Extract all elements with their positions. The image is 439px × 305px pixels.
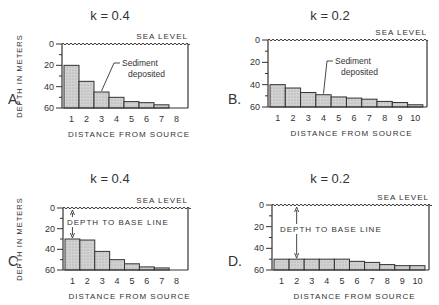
x-tick-label: 8 [174,276,179,286]
x-tick-label: 6 [144,114,149,124]
annotation-text: DEPTH TO BASE LINE [67,218,169,227]
sea-level-label: SEA LEVEL [136,196,188,205]
bar [109,97,124,108]
x-tick-label: 9 [400,276,405,286]
bar [64,65,79,108]
y-tick-label: 40 [254,243,264,253]
panel-label: D. [228,253,242,269]
x-axis-label: DISTANCE FROM SOURCE [293,292,415,301]
y-tick-label: 40 [45,244,55,254]
x-tick-label: 4 [114,114,119,124]
x-tick-label: 2 [294,276,299,286]
sea-level-line [272,204,432,206]
y-tick-label: 60 [254,265,264,275]
y-tick-label: 60 [45,265,55,275]
bar [124,102,139,108]
x-tick-label: 7 [159,276,164,286]
bar [346,98,361,107]
x-tick-label: 10 [412,276,422,286]
x-tick-label: 7 [370,276,375,286]
bar [65,239,80,270]
y-tick-label: 0 [50,203,55,213]
x-tick-label: 5 [336,113,341,123]
bar [319,259,334,270]
y-tick-label: 0 [255,35,260,45]
sea-level-line [268,39,428,41]
sea-level-label: SEA LEVEL [377,193,429,202]
x-tick-label: 1 [275,113,280,123]
x-tick-label: 10 [410,113,420,123]
bar [362,99,377,107]
chart-title: k = 0.2 [310,171,349,186]
x-tick-label: 1 [279,276,284,286]
y-axis-label: DEPTH IN METERS [15,197,24,280]
bar [139,103,154,108]
annotation-text: Sediment [335,56,372,66]
x-tick-label: 6 [355,276,360,286]
sea-level-label: SEA LEVEL [136,32,188,41]
bar [316,95,331,107]
bar [349,261,364,270]
y-tick-label: 20 [254,222,264,232]
bar [270,85,285,107]
y-tick-label: 20 [45,224,55,234]
x-tick-label: 5 [339,276,344,286]
bar [94,92,109,108]
sea-level-line [62,43,190,45]
y-axis-label: DEPTH IN METERS [15,34,24,117]
annotation-text: deposited [341,67,378,77]
panel-label: B. [228,91,241,107]
bar [301,92,316,107]
x-tick-label: 3 [99,114,104,124]
panel-d: k = 0.2D.SEA LEVEL020406012345678910DIST… [228,171,432,301]
bar [285,88,300,107]
y-tick-label: 60 [44,103,54,113]
x-axis-label: DISTANCE FROM SOURCE [68,130,190,139]
bar [110,260,125,270]
annotation-text: Sediment [122,58,159,68]
y-tick-label: 60 [250,102,260,112]
bar [380,265,395,270]
y-tick-label: 20 [44,60,54,70]
y-tick-label: 20 [250,57,260,67]
bar [304,259,319,270]
bar [377,101,392,107]
annotation-leader [102,63,121,91]
x-tick-label: 3 [100,276,105,286]
chart-title: k = 0.4 [90,171,129,186]
chart-title: k = 0.2 [310,8,349,23]
y-tick-label: 0 [259,200,264,210]
x-tick-label: 2 [85,276,90,286]
x-tick-label: 4 [321,113,326,123]
x-tick-label: 3 [309,276,314,286]
bar [95,251,110,270]
x-tick-label: 1 [69,114,74,124]
panel-c: k = 0.4C.SEA LEVEL020406012345678DISTANC… [8,171,191,301]
panel-a: k = 0.4A.SEA LEVEL020406012345678DISTANC… [8,8,190,139]
annotation-text: deposited [128,69,165,79]
x-tick-label: 2 [290,113,295,123]
chart-title: k = 0.4 [90,8,129,23]
bar [80,240,95,270]
x-tick-label: 6 [144,276,149,286]
x-tick-label: 8 [382,113,387,123]
x-tick-label: 5 [129,276,134,286]
bar [289,259,304,270]
x-axis-label: DISTANCE FROM SOURCE [68,292,190,301]
x-tick-label: 8 [385,276,390,286]
bar [395,266,410,270]
x-tick-label: 9 [397,113,402,123]
annotation-text: DEPTH TO BASE LINE [280,225,382,234]
x-tick-label: 1 [70,276,75,286]
annotation-leader [324,61,333,94]
x-tick-label: 3 [306,113,311,123]
x-tick-label: 8 [174,114,179,124]
x-tick-label: 4 [324,276,329,286]
sea-level-line [63,207,191,209]
x-axis-label: DISTANCE FROM SOURCE [290,129,412,138]
y-tick-label: 40 [44,82,54,92]
x-tick-label: 5 [129,114,134,124]
bar [410,266,425,270]
y-tick-label: 40 [250,80,260,90]
x-tick-label: 4 [115,276,120,286]
